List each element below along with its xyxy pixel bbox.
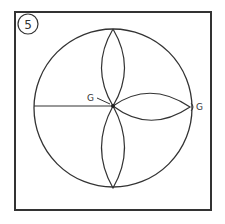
petal-top — [102, 29, 125, 106]
center-point-dot — [111, 104, 115, 108]
petal-right — [113, 93, 190, 120]
diagram-canvas: 5 G G — [0, 0, 225, 224]
petal-bottom — [102, 106, 125, 188]
right-point-label: G — [196, 102, 203, 112]
center-arrow — [97, 98, 110, 104]
frame-border — [15, 12, 211, 210]
center-point-label: G — [87, 93, 94, 103]
step-number: 5 — [24, 18, 32, 32]
